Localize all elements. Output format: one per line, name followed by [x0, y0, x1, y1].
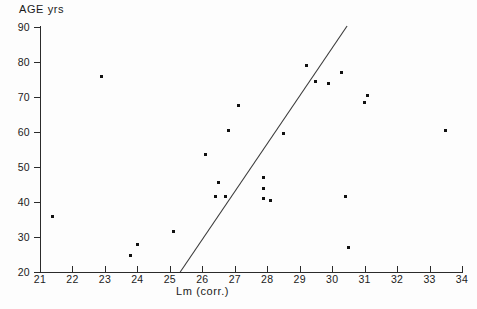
scatter-plot-figure: AGE yrs Lm (corr.) 2030405060708090 2122…: [0, 0, 477, 309]
trend-line: [0, 0, 477, 309]
